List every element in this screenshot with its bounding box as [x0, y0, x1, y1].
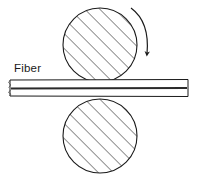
fiber-strip [9, 80, 189, 97]
fiber-label: Fiber [14, 62, 41, 74]
fiber-roller-diagram: Fiber [0, 0, 200, 183]
bottom-roller [63, 99, 137, 173]
top-roller [63, 8, 137, 82]
fiber-core-line [11, 88, 187, 89]
diagram-canvas: Fiber [0, 0, 200, 183]
